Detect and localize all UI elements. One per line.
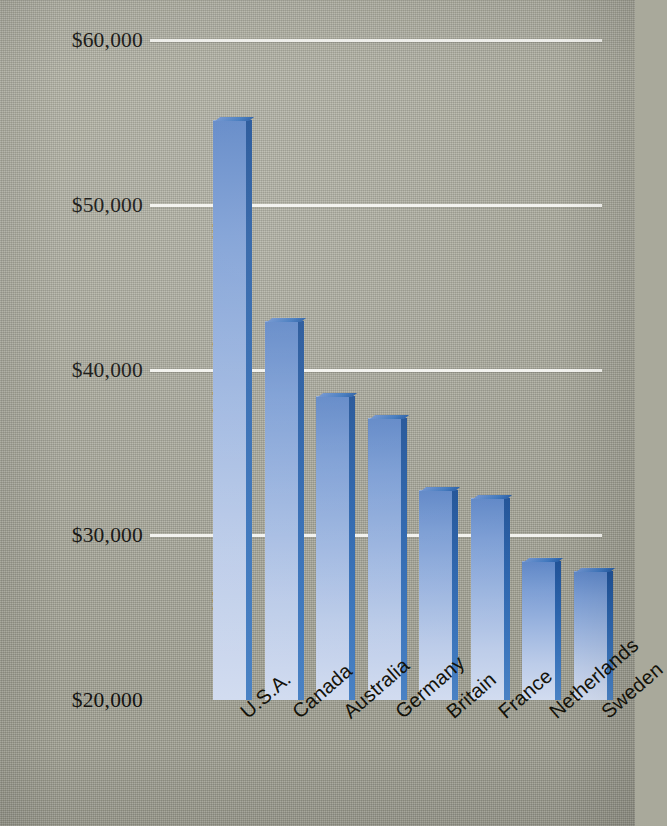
bar-top-face	[421, 487, 460, 491]
bar-top-face	[215, 117, 254, 121]
bar-side-face	[555, 561, 561, 700]
y-axis-tick-label: $50,000	[0, 193, 143, 218]
bar	[316, 396, 349, 700]
gridline	[150, 39, 602, 42]
y-axis-tick-label: $40,000	[0, 358, 143, 383]
bar-side-face	[298, 321, 304, 701]
bar-top-face	[473, 495, 512, 499]
bar-side-face	[246, 120, 252, 700]
bar-top-face	[267, 318, 306, 322]
y-axis-tick-label: $20,000	[0, 688, 143, 713]
bar-side-face	[504, 498, 510, 700]
bar-top-face	[576, 568, 615, 572]
bar-side-face	[349, 396, 355, 700]
bar-top-face	[370, 415, 409, 419]
bar	[265, 321, 298, 701]
bar-top-face	[524, 558, 563, 562]
y-axis-tick-label: $30,000	[0, 523, 143, 548]
bar	[213, 120, 246, 700]
y-axis-tick-label: $60,000	[0, 28, 143, 53]
bar-top-face	[318, 393, 357, 397]
plot-area	[150, 40, 602, 700]
